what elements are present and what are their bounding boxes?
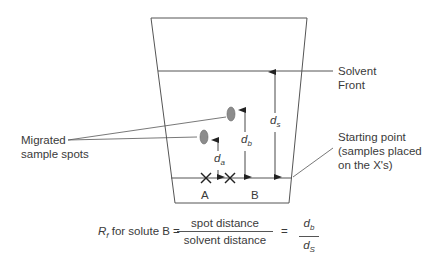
lane-a-label: A — [201, 188, 209, 202]
rf-equals: = — [281, 224, 288, 238]
starting-point-label: Starting point (samples placed on the X'… — [338, 130, 422, 172]
da-label: da — [213, 151, 226, 170]
db-label: db — [240, 132, 253, 151]
starting-point-leader — [293, 148, 333, 177]
lane-b-label: B — [251, 188, 259, 202]
spot-a — [200, 130, 208, 144]
migrated-spots-label: Migrated sample spots — [21, 133, 89, 161]
spot-b — [227, 107, 235, 121]
rf-fraction-symbolic: db dS — [299, 216, 319, 257]
rf-lhs: Rf for solute B = — [98, 224, 180, 243]
ds-label: ds — [269, 113, 281, 132]
solvent-front-label: Solvent Front — [338, 64, 376, 92]
rf-fraction-text: spot distance solvent distance — [177, 216, 273, 247]
